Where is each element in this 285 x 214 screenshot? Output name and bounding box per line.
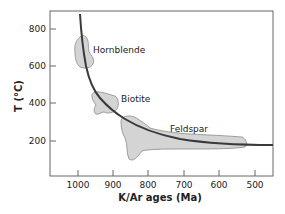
x-tick-label: 700 xyxy=(175,180,192,190)
feldspar-field xyxy=(121,116,246,160)
x-tick-label: 500 xyxy=(246,180,263,190)
x-tick-label: 600 xyxy=(210,180,227,190)
y-tick-label: 400 xyxy=(29,98,46,108)
y-tick-label: 600 xyxy=(29,61,46,71)
x-tick-label: 900 xyxy=(104,180,121,190)
feldspar-label: Feldspar xyxy=(170,124,208,134)
chart: 800 600 400 200 T (°C) 1000 900 800 700 … xyxy=(0,0,285,214)
y-axis-title: T (°C) xyxy=(13,80,24,112)
y-tick-label: 200 xyxy=(29,136,46,146)
biotite-label: Biotite xyxy=(121,94,151,104)
x-tick-label: 1000 xyxy=(67,180,90,190)
x-axis-title: K/Ar ages (Ma) xyxy=(118,192,202,203)
hornblende-label: Hornblende xyxy=(93,45,146,55)
x-axis: 1000 900 800 700 600 500 K/Ar ages (Ma) xyxy=(67,170,264,203)
y-tick-label: 800 xyxy=(29,24,46,34)
x-tick-label: 800 xyxy=(139,180,156,190)
